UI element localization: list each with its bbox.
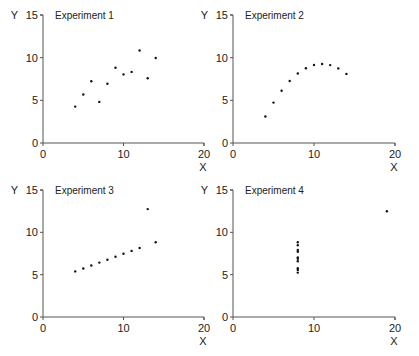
data-point: [98, 101, 100, 103]
data-point: [313, 64, 315, 66]
data-point: [138, 247, 140, 249]
data-point: [297, 241, 299, 243]
y-axis-label: Y: [11, 9, 19, 21]
data-point: [297, 249, 299, 251]
y-tick-label: 5: [222, 269, 228, 281]
data-point: [74, 270, 76, 272]
x-axis-label: X: [390, 335, 398, 347]
data-point: [297, 244, 299, 246]
data-point: [114, 67, 116, 69]
x-axis-label: X: [390, 161, 398, 173]
y-tick-label: 5: [222, 94, 228, 106]
data-point: [297, 260, 299, 262]
data-point: [147, 77, 149, 79]
y-tick-label: 0: [32, 311, 38, 323]
y-tick-label: 10: [26, 52, 38, 64]
data-point: [155, 241, 157, 243]
y-tick-label: 5: [32, 269, 38, 281]
data-point: [90, 264, 92, 266]
y-axis-label: Y: [201, 184, 209, 196]
x-tick-label: 10: [308, 148, 320, 160]
axes: [40, 190, 204, 320]
data-point: [386, 210, 388, 212]
y-tick-label: 15: [216, 184, 228, 196]
data-point: [138, 49, 140, 51]
panel-title: Experiment 3: [55, 185, 114, 196]
data-point: [106, 259, 108, 261]
y-tick-label: 15: [26, 184, 38, 196]
scatter-panel-3: 05101501020YXExperiment 3: [11, 184, 210, 347]
data-point: [155, 57, 157, 59]
data-point: [74, 105, 76, 107]
data-point: [289, 80, 291, 82]
panel-title: Experiment 1: [55, 10, 114, 21]
data-point: [329, 64, 331, 66]
x-tick-label: 20: [198, 322, 210, 334]
data-point: [122, 73, 124, 75]
data-point: [321, 63, 323, 65]
y-tick-label: 0: [222, 311, 228, 323]
y-tick-label: 0: [222, 137, 228, 149]
x-tick-label: 20: [389, 148, 401, 160]
y-axis-label: Y: [201, 9, 209, 21]
data-point: [82, 267, 84, 269]
data-point: [130, 71, 132, 73]
y-tick-label: 0: [32, 137, 38, 149]
anscombe-quartet-chart: 05101501020YXExperiment 105101501020YXEx…: [0, 0, 419, 356]
axes: [230, 15, 395, 146]
y-axis-label: Y: [11, 184, 19, 196]
x-tick-label: 20: [198, 148, 210, 160]
data-point: [98, 261, 100, 263]
y-tick-label: 10: [216, 226, 228, 238]
y-tick-label: 15: [26, 9, 38, 21]
x-axis-label: X: [199, 335, 207, 347]
data-point: [90, 80, 92, 82]
data-point: [305, 67, 307, 69]
x-tick-label: 10: [308, 322, 320, 334]
data-point: [114, 256, 116, 258]
data-point: [345, 73, 347, 75]
data-point: [297, 258, 299, 260]
x-tick-label: 20: [389, 322, 401, 334]
x-axis-label: X: [199, 161, 207, 173]
data-point: [297, 269, 299, 271]
data-point: [297, 72, 299, 74]
data-point: [147, 208, 149, 210]
x-tick-label: 0: [40, 148, 46, 160]
data-point: [272, 101, 274, 103]
scatter-panel-4: 05101501020YXExperiment 4: [201, 184, 401, 347]
x-tick-label: 0: [230, 148, 236, 160]
x-tick-label: 10: [117, 322, 129, 334]
axes: [40, 15, 204, 146]
data-point: [122, 253, 124, 255]
x-tick-label: 10: [117, 148, 129, 160]
data-point: [280, 90, 282, 92]
data-point: [106, 83, 108, 85]
scatter-panel-2: 05101501020YXExperiment 2: [201, 9, 401, 173]
scatter-panel-1: 05101501020YXExperiment 1: [11, 9, 210, 173]
x-tick-label: 0: [230, 322, 236, 334]
data-point: [82, 93, 84, 95]
panel-title: Experiment 2: [245, 10, 304, 21]
data-point: [130, 250, 132, 252]
axes: [230, 190, 395, 320]
y-tick-label: 5: [32, 94, 38, 106]
y-tick-label: 10: [26, 226, 38, 238]
data-point: [337, 67, 339, 69]
y-tick-label: 15: [216, 9, 228, 21]
data-point: [264, 115, 266, 117]
y-tick-label: 10: [216, 52, 228, 64]
data-point: [297, 271, 299, 273]
x-tick-label: 0: [40, 322, 46, 334]
panel-title: Experiment 4: [245, 185, 304, 196]
